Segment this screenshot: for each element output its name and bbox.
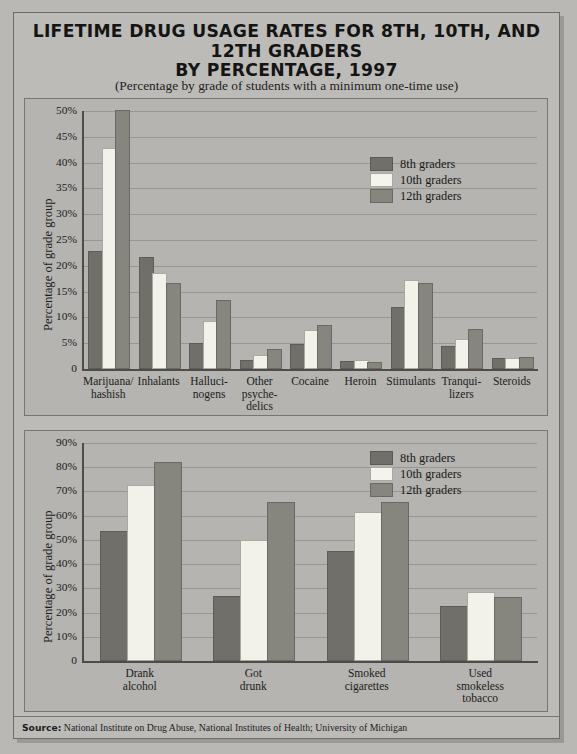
bar bbox=[467, 592, 495, 661]
y-axis-tick-label: 35% bbox=[37, 181, 77, 193]
legend-swatch bbox=[370, 483, 393, 497]
chart-legend: 8th graders10th graders12th graders bbox=[370, 157, 462, 205]
chart-illicit-drugs: 05%10%15%20%25%30%35%40%45%50%Percentage… bbox=[24, 98, 548, 416]
x-axis-category-label: Usedsmokelesstobacco bbox=[418, 667, 544, 705]
bar bbox=[115, 110, 130, 369]
bar bbox=[367, 362, 382, 369]
chart-alcohol-tobacco: 010%20%30%40%50%60%70%80%90%Percentage o… bbox=[24, 430, 548, 712]
bar bbox=[468, 329, 483, 369]
y-axis-title: Percentage of grade group bbox=[41, 198, 56, 331]
y-axis-title: Percentage of grade group bbox=[41, 510, 56, 643]
bar bbox=[213, 596, 241, 661]
y-axis-tick-label: 40% bbox=[37, 156, 77, 168]
bar bbox=[440, 606, 468, 661]
bar bbox=[216, 300, 231, 369]
y-axis-tick-label: 5% bbox=[37, 336, 77, 348]
y-axis-tick-label: 80% bbox=[37, 460, 77, 472]
source-divider bbox=[14, 716, 559, 717]
bar bbox=[317, 325, 332, 369]
gridline bbox=[83, 111, 537, 112]
legend-item: 12th graders bbox=[370, 189, 462, 204]
bar bbox=[327, 551, 355, 661]
bar bbox=[494, 597, 522, 661]
legend-label: 12th graders bbox=[400, 483, 462, 498]
legend-item: 10th graders bbox=[370, 467, 462, 482]
y-axis-tick-label: 90% bbox=[37, 436, 77, 448]
legend-item: 10th graders bbox=[370, 173, 462, 188]
source-note: Source: National Institute on Drug Abuse… bbox=[22, 722, 407, 733]
x-axis-category-label: Gotdrunk bbox=[191, 667, 317, 692]
legend-swatch bbox=[370, 451, 393, 465]
legend-item: 8th graders bbox=[370, 451, 462, 466]
legend-swatch bbox=[370, 189, 393, 203]
legend-item: 8th graders bbox=[370, 157, 462, 172]
x-axis bbox=[82, 661, 538, 663]
source-text: National Institute on Drug Abuse, Nation… bbox=[64, 722, 407, 733]
legend-label: 10th graders bbox=[400, 467, 462, 482]
bar bbox=[381, 502, 409, 661]
chart-page: LIFETIME DRUG USAGE RATES FOR 8TH, 10TH,… bbox=[0, 0, 577, 754]
gridline bbox=[83, 163, 537, 164]
x-axis-category-label: Drankalcohol bbox=[77, 667, 203, 692]
y-axis bbox=[82, 111, 84, 370]
gridline bbox=[83, 188, 537, 189]
x-axis-category-label: Steroids bbox=[481, 375, 543, 388]
plot-area bbox=[83, 111, 537, 369]
gridline bbox=[83, 240, 537, 241]
title-line-1: LIFETIME DRUG USAGE RATES FOR 8TH, 10TH,… bbox=[14, 22, 559, 61]
bar bbox=[154, 462, 182, 661]
source-label: Source: bbox=[22, 722, 61, 733]
chart-legend: 8th graders10th graders12th graders bbox=[370, 451, 462, 499]
legend-swatch bbox=[370, 173, 393, 187]
bar bbox=[240, 540, 268, 661]
bar bbox=[267, 349, 282, 369]
y-axis-tick-label: 45% bbox=[37, 130, 77, 142]
y-axis-tick-label: 0 bbox=[37, 362, 77, 374]
legend-label: 10th graders bbox=[400, 173, 462, 188]
legend-label: 8th graders bbox=[400, 157, 455, 172]
bar bbox=[166, 283, 181, 369]
y-axis bbox=[82, 443, 84, 662]
legend-swatch bbox=[370, 467, 393, 481]
page-subtitle: (Percentage by grade of students with a … bbox=[14, 78, 559, 94]
plot-area bbox=[83, 443, 537, 661]
legend-swatch bbox=[370, 157, 393, 171]
bar bbox=[127, 485, 155, 661]
legend-label: 8th graders bbox=[400, 451, 455, 466]
gridline bbox=[83, 443, 537, 444]
x-axis bbox=[82, 369, 538, 371]
bar bbox=[519, 357, 534, 369]
y-axis-tick-label: 50% bbox=[37, 104, 77, 116]
bar bbox=[354, 512, 382, 661]
gridline bbox=[83, 137, 537, 138]
bar bbox=[267, 502, 295, 661]
gridline bbox=[83, 467, 537, 468]
bar bbox=[100, 531, 128, 661]
legend-item: 12th graders bbox=[370, 483, 462, 498]
y-axis-tick-label: 70% bbox=[37, 484, 77, 496]
x-axis-category-label: Smokedcigarettes bbox=[304, 667, 430, 692]
page-title: LIFETIME DRUG USAGE RATES FOR 8TH, 10TH,… bbox=[14, 22, 559, 81]
legend-label: 12th graders bbox=[400, 189, 462, 204]
bar bbox=[418, 283, 433, 369]
gridline bbox=[83, 214, 537, 215]
y-axis-tick-label: 0 bbox=[37, 654, 77, 666]
